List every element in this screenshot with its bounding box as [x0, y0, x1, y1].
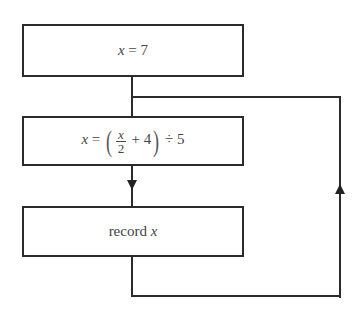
init-var: x — [118, 42, 125, 58]
record-word: record — [109, 223, 147, 239]
init-box: x = 7 — [22, 24, 244, 77]
loop-up-arrow-icon — [335, 184, 345, 194]
loop-bottom-horizontal — [131, 295, 341, 297]
plus-term: + 4 — [132, 131, 152, 147]
right-paren: ) — [153, 126, 159, 156]
fraction: x2 — [116, 128, 126, 155]
loop-top-horizontal — [131, 96, 341, 98]
compute-var: x — [81, 131, 88, 147]
compute-formula: x = (x2 + 4) ÷ 5 — [81, 126, 184, 156]
init-value: 7 — [141, 42, 149, 58]
divide-term: ÷ 5 — [165, 131, 184, 147]
init-eq: = — [128, 42, 136, 58]
fraction-numerator: x — [116, 128, 126, 142]
init-label: x = 7 — [118, 42, 148, 59]
compute-eq: = — [92, 131, 100, 147]
record-label: record x — [109, 223, 158, 240]
loop-right-vertical — [339, 96, 341, 298]
record-box: record x — [22, 206, 244, 257]
loop-bottom-vertical — [131, 257, 133, 297]
fraction-denominator: 2 — [118, 142, 125, 155]
compute-box: x = (x2 + 4) ÷ 5 — [22, 116, 244, 166]
left-paren: ( — [106, 126, 112, 156]
record-var: x — [151, 223, 158, 239]
down-arrow-icon — [127, 180, 137, 190]
